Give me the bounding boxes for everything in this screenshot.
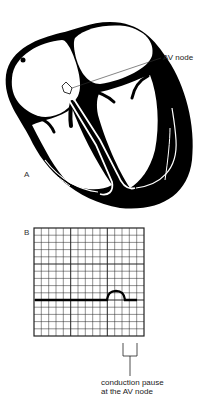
ecg-grid bbox=[34, 228, 144, 336]
ecg-trace bbox=[35, 291, 137, 300]
conduction-pause-label-line1: conduction pause bbox=[101, 378, 164, 387]
av-node-label: AV node bbox=[163, 53, 193, 62]
heart-diagram bbox=[0, 0, 206, 215]
sa-node-dot bbox=[21, 58, 26, 63]
panel-a-label: A bbox=[24, 170, 29, 179]
pause-bracket bbox=[123, 343, 137, 376]
conduction-pause-label-line2: at the AV node bbox=[101, 387, 153, 396]
